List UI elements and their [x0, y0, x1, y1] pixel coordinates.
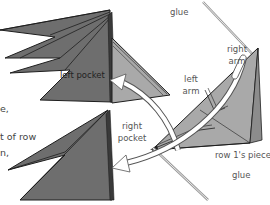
- label-row1-piece: row 1's piece: [215, 150, 270, 160]
- label-right-pocket: right pocket: [114, 121, 150, 143]
- label-right-arm: right arm: [222, 44, 252, 66]
- label-glue-top: glue: [170, 7, 188, 17]
- diagram-artwork: [0, 0, 270, 205]
- upper-dark-piece: [0, 10, 115, 102]
- text-fragment-3: n,: [0, 147, 9, 158]
- text-fragment-2: t of row: [0, 131, 36, 142]
- label-glue-bottom: glue: [232, 170, 250, 180]
- origami-diagram: e, t of row n, left pocket glue right ar…: [0, 0, 270, 205]
- label-left-arm: left arm: [178, 74, 204, 96]
- text-fragment-1: e,: [0, 103, 9, 114]
- lower-dark-piece: [8, 110, 114, 200]
- label-left-pocket: left pocket: [60, 70, 105, 80]
